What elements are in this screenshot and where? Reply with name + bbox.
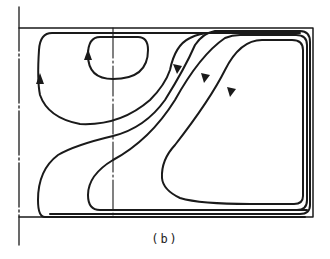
figure-caption: (b) bbox=[0, 232, 330, 246]
arrow-up-icon bbox=[36, 73, 44, 84]
arrow-up-icon bbox=[84, 49, 92, 60]
streamline-diagram bbox=[0, 0, 330, 259]
streamline-4 bbox=[162, 40, 303, 204]
arrow-down-icon bbox=[227, 87, 236, 97]
small-vortex-loop bbox=[88, 37, 148, 79]
streamline-3 bbox=[88, 35, 307, 210]
arrow-down-icon bbox=[201, 73, 210, 83]
